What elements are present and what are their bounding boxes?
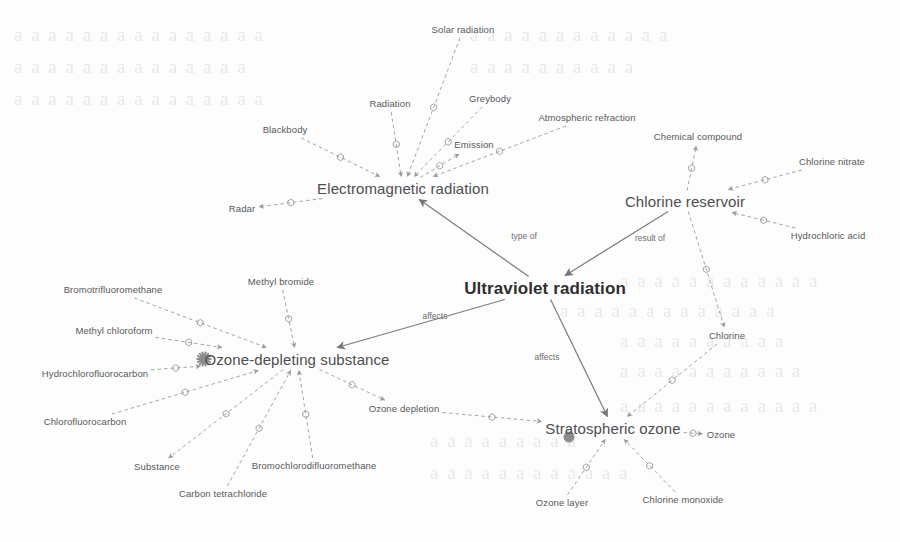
graph-edge-ozone-depleting-substance-to-ozone-depletion (320, 370, 385, 401)
graph-edge-chlorine-monoxide-to-stratospheric-ozone (624, 440, 675, 493)
graph-edge-label-type-of: type of (511, 232, 537, 241)
graph-edge-chlorine-reservoir-to-chlorine (688, 212, 724, 328)
graph-edge-bromochlorodifluoromethane-to-ozone-depleting-substance (299, 371, 313, 459)
graph-node-carbon-tetrachloride[interactable]: Carbon tetrachloride (179, 489, 267, 499)
graph-node-greybody[interactable]: Greybody (469, 94, 511, 104)
graph-edge-ozone-layer-to-stratospheric-ozone (567, 440, 605, 496)
graph-node-chlorine-reservoir[interactable]: Chlorine reservoir (625, 194, 745, 209)
graph-node-electromagnetic-radiation[interactable]: Electromagnetic radiation (317, 181, 489, 196)
edge-midpoint-marker (182, 389, 188, 396)
graph-node-chlorofluorocarbon[interactable]: Chlorofluorocarbon (44, 417, 127, 427)
graph-edge-ozone-depleting-substance-to-substance (169, 370, 284, 459)
edge-midpoint-marker (762, 176, 768, 183)
graph-node-substance[interactable]: Substance (134, 462, 180, 472)
edge-midpoint-marker (669, 377, 675, 384)
graph-node-radiation[interactable]: Radiation (369, 99, 410, 109)
graph-node-ozone-depletion[interactable]: Ozone depletion (369, 404, 440, 414)
graph-edge-ultraviolet-radiation-to-ozone-depleting-substance (337, 300, 505, 348)
graph-edge-stratospheric-ozone-to-ozone (684, 433, 703, 434)
graph-edge-solar-radiation-to-electromagnetic-radiation (407, 38, 460, 177)
graph-node-atmospheric-refraction[interactable]: Atmospheric refraction (538, 113, 635, 123)
graph-edge-hydrochloric-acid-to-chlorine-reservoir (732, 213, 795, 229)
graph-node-ozone[interactable]: Ozone (707, 430, 736, 440)
edge-midpoint-marker (197, 319, 203, 326)
graph-node-hydrochlorofluorocarbon[interactable]: Hydrochlorofluorocarbon (42, 369, 148, 379)
graph-edge-label-affects-ozone: affects (535, 353, 560, 362)
graph-node-bromochlorodifluoromethane[interactable]: Bromochlorodifluoromethane (252, 461, 377, 471)
graph-node-bromotrifluoromethane[interactable]: Bromotrifluoromethane (64, 285, 163, 295)
edge-midpoint-marker (338, 154, 344, 161)
graph-node-stratospheric-ozone[interactable]: Stratospheric ozone (545, 421, 680, 436)
graph-edge-hydrochlorofluorocarbon-to-ozone-depleting-substance (151, 366, 201, 370)
graph-edge-chlorine-to-stratospheric-ozone (627, 344, 717, 417)
graph-node-ozone-depleting-substance[interactable]: Ozone-depleting substance (204, 352, 389, 367)
graph-node-methyl-chloroform[interactable]: Methyl chloroform (75, 326, 152, 336)
graph-edge-label-affects-ods: affects (423, 312, 448, 321)
graph-node-blackbody[interactable]: Blackbody (263, 125, 308, 135)
diagram-canvas: a a a a a a a a a a a a a a aa a a a a a… (0, 0, 900, 542)
graph-node-solar-radiation[interactable]: Solar radiation (432, 25, 495, 35)
graph-node-chlorine-monoxide[interactable]: Chlorine monoxide (643, 495, 724, 505)
graph-node-chlorine-nitrate[interactable]: Chlorine nitrate (799, 157, 865, 167)
graph-edge-electromagnetic-radiation-to-emission (420, 154, 459, 178)
edge-midpoint-marker (497, 148, 503, 155)
graph-edge-bromotrifluoromethane-to-ozone-depleting-substance (134, 298, 266, 348)
graph-edge-methyl-bromide-to-ozone-depleting-substance (283, 290, 295, 348)
graph-node-ultraviolet-radiation[interactable]: Ultraviolet radiation (464, 280, 626, 297)
graph-node-hydrochloric-acid[interactable]: Hydrochloric acid (791, 231, 866, 241)
graph-edge-radiation-to-electromagnetic-radiation (391, 112, 401, 177)
graph-node-emission[interactable]: Emission (454, 140, 493, 150)
graph-node-ozone-layer[interactable]: Ozone layer (536, 498, 588, 508)
graph-edge-label-result-of: result of (635, 234, 665, 243)
graph-node-radar[interactable]: Radar (229, 204, 255, 214)
graph-node-chlorine[interactable]: Chlorine (709, 331, 745, 341)
edges (112, 38, 802, 495)
graph-node-chemical-compound[interactable]: Chemical compound (654, 132, 742, 142)
graph-edge-blackbody-to-electromagnetic-radiation (301, 138, 379, 177)
graph-node-methyl-bromide[interactable]: Methyl bromide (248, 277, 314, 287)
edge-midpoint-marker (647, 462, 653, 469)
graph-edge-chlorine-reservoir-to-ultraviolet-radiation (565, 212, 668, 276)
graph-edge-atmospheric-refraction-to-electromagnetic-radiation (433, 126, 566, 177)
graph-edge-chlorine-nitrate-to-chlorine-reservoir (728, 170, 802, 190)
